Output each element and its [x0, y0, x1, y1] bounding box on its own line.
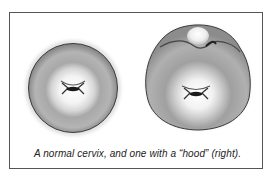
figure-caption: A normal cervix, and one with a “hood” (…	[0, 148, 275, 159]
hooded-cervix	[146, 25, 251, 130]
normal-cervix	[25, 40, 121, 136]
